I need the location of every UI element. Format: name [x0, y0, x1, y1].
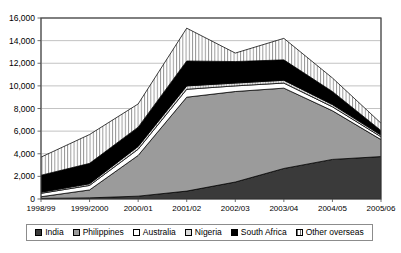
x-tick-label: 2002/03: [221, 204, 250, 213]
x-tick-label: 1998/99: [27, 204, 56, 213]
y-tick-label: 14,000: [9, 36, 35, 46]
x-tick-label: 2003/04: [269, 204, 298, 213]
legend-swatch-nigeria: [185, 229, 192, 236]
legend-item-south-africa[interactable]: South Africa: [231, 228, 287, 237]
x-axis-labels: 1998/991999/20002000/012001/022002/03200…: [27, 199, 396, 213]
legend-label-other-overseas: Other overseas: [306, 228, 364, 237]
legend-swatch-philippines: [73, 229, 80, 236]
x-tick-label: 2004/05: [318, 204, 347, 213]
legend-swatch-other-overseas: [296, 229, 303, 236]
chart-legend: India Philippines Australia Nigeria Sout…: [26, 224, 373, 241]
legend-item-other-overseas[interactable]: Other overseas: [296, 228, 364, 237]
y-tick-label: 4,000: [14, 149, 36, 159]
stacked-area-chart-figure: 02,0004,0006,0008,00010,00012,00014,0001…: [0, 0, 401, 253]
y-tick-label: 2,000: [14, 171, 36, 181]
x-tick-label: 2000/01: [124, 204, 153, 213]
legend-label-india: India: [45, 228, 63, 237]
legend-label-philippines: Philippines: [83, 228, 124, 237]
legend-item-nigeria[interactable]: Nigeria: [185, 228, 222, 237]
x-tick-label: 1999/2000: [71, 204, 109, 213]
legend-swatch-south-africa: [231, 229, 238, 236]
legend-item-philippines[interactable]: Philippines: [73, 228, 124, 237]
y-axis-labels: 02,0004,0006,0008,00010,00012,00014,0001…: [9, 13, 35, 204]
x-tick-label: 2005/06: [367, 204, 396, 213]
legend-label-nigeria: Nigeria: [195, 228, 222, 237]
y-axis-ticks: [38, 18, 42, 199]
legend-label-australia: Australia: [143, 228, 176, 237]
y-tick-label: 8,000: [14, 104, 36, 114]
legend-item-australia[interactable]: Australia: [133, 228, 176, 237]
legend-label-south-africa: South Africa: [241, 228, 287, 237]
chart-svg: 02,0004,0006,0008,00010,00012,00014,0001…: [0, 0, 401, 218]
y-tick-label: 6,000: [14, 126, 36, 136]
legend-swatch-australia: [133, 229, 140, 236]
x-tick-label: 2001/02: [172, 204, 201, 213]
plot-area: 02,0004,0006,0008,00010,00012,00014,0001…: [0, 0, 401, 218]
legend-item-india[interactable]: India: [35, 228, 63, 237]
y-tick-label: 10,000: [9, 81, 35, 91]
y-tick-label: 16,000: [9, 13, 35, 23]
y-tick-label: 0: [30, 194, 35, 204]
legend-swatch-india: [35, 229, 42, 236]
y-tick-label: 12,000: [9, 58, 35, 68]
